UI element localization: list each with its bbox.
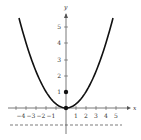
y-tick-label: 4 <box>57 39 61 46</box>
y-tick-label: 3 <box>57 56 61 63</box>
x-tick-label: −2 <box>37 112 46 119</box>
x-tick-label: 5 <box>114 112 118 119</box>
focus-point <box>64 90 68 94</box>
x-axis-arrow-icon <box>127 106 131 110</box>
x-tick-label: 3 <box>94 112 98 119</box>
y-axis-arrow-icon <box>64 13 68 18</box>
x-tick-label: 2 <box>84 112 88 119</box>
x-tick-label: 4 <box>104 112 108 119</box>
x-tick-label: −3 <box>27 112 36 119</box>
chart-canvas: x y −4 −3 −2 −1 1 2 3 4 5 1 2 3 <box>0 0 141 140</box>
x-tick-label: −4 <box>17 112 26 119</box>
vertex-point <box>64 106 68 110</box>
y-tick-label: 2 <box>57 72 61 79</box>
parabola-chart: x y −4 −3 −2 −1 1 2 3 4 5 1 2 3 <box>0 0 141 140</box>
y-tick-label: 5 <box>57 23 61 30</box>
x-tick-label: 1 <box>74 112 78 119</box>
y-tick-label: 1 <box>57 88 61 95</box>
x-axis-label: x <box>133 104 137 111</box>
x-tick-label: −1 <box>47 112 56 119</box>
y-axis-label: y <box>63 3 68 11</box>
